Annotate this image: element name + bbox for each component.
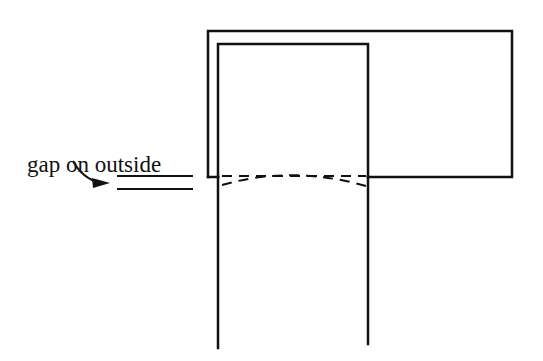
outer-frame: [208, 31, 512, 177]
arrow-head-icon: [92, 178, 110, 188]
joint-diagram: [0, 0, 543, 361]
inner-frame: [218, 44, 368, 177]
